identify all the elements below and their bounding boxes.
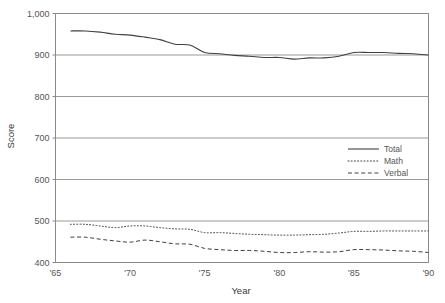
y-tick-label: 900: [34, 50, 49, 60]
x-tick-label: '65: [50, 268, 62, 278]
y-axis-label: Score: [5, 124, 16, 149]
y-tick-label: 1,000: [27, 9, 50, 19]
x-tick-label: '85: [348, 268, 360, 278]
legend-label-total: Total: [384, 144, 402, 154]
x-tick-label: '70: [124, 268, 136, 278]
chart-container: 4005006007008009001,000 '65'70'75'80'85'…: [0, 0, 445, 303]
y-tick-label: 400: [34, 258, 49, 268]
sat-score-line-chart: 4005006007008009001,000 '65'70'75'80'85'…: [0, 0, 445, 303]
chart-background: [0, 0, 445, 303]
y-tick-label: 500: [34, 216, 49, 226]
x-tick-label: '75: [199, 268, 211, 278]
x-axis-label: Year: [231, 285, 250, 296]
x-tick-label: '90: [423, 268, 435, 278]
y-tick-label: 800: [34, 92, 49, 102]
legend-label-math: Math: [384, 156, 403, 166]
legend-label-verbal: Verbal: [384, 168, 408, 178]
x-tick-label: '80: [273, 268, 285, 278]
y-tick-label: 600: [34, 175, 49, 185]
y-tick-label: 700: [34, 133, 49, 143]
